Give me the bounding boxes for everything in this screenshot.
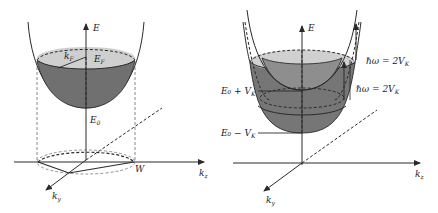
left-e-axis-label: E [92, 23, 100, 33]
left-kz-label: kz [199, 168, 208, 179]
right-panel: E ℏω = 2VK ℏω = 2VK E₀ + VK E₀ − VK kz k… [220, 10, 424, 207]
w-point-label: W [135, 164, 145, 174]
right-e-axis-label: E [307, 23, 315, 33]
right-ky-axis-arrow [264, 163, 302, 191]
right-ky-label: ky [266, 195, 275, 207]
band-structure-figure: E kF EF E0 W kz ky [0, 0, 438, 213]
level-label-lower: E₀ − VK [220, 128, 256, 139]
transition-label-lower: ℏω = 2VK [356, 84, 400, 95]
right-kz-label: kz [415, 169, 424, 180]
e0-label: E0 [89, 115, 101, 126]
figure-canvas: E kF EF E0 W kz ky [0, 0, 438, 213]
ky-axis-arrow [46, 160, 86, 190]
transition-label-upper: ℏω = 2VK [366, 56, 410, 67]
left-panel: E kF EF E0 W kz ky [14, 22, 208, 203]
lower-band-curve-left [243, 22, 250, 63]
brillouin-triangle [38, 162, 134, 173]
level-label-upper: E₀ + VK [220, 86, 256, 97]
left-ky-label: ky [52, 191, 61, 203]
